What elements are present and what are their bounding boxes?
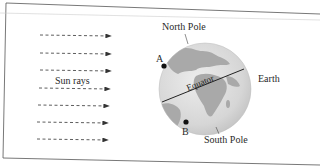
north-pole-leader — [185, 34, 188, 44]
point-a-label: A — [156, 54, 163, 64]
sun-rays-label: Sun rays — [55, 76, 90, 86]
earth-sun-diagram: Equator North Pole A Earth Sun rays B So… — [0, 0, 320, 168]
north-pole-label: North Pole — [162, 22, 206, 32]
diagram-canvas: Equator — [0, 0, 320, 168]
sun-rays-arrows — [37, 35, 111, 140]
point-a-marker — [161, 63, 166, 68]
earth-label: Earth — [258, 74, 280, 84]
point-b-marker — [183, 119, 188, 124]
earth-globe — [159, 43, 251, 135]
south-pole-label: South Pole — [204, 135, 248, 145]
point-b-label: B — [182, 127, 189, 137]
